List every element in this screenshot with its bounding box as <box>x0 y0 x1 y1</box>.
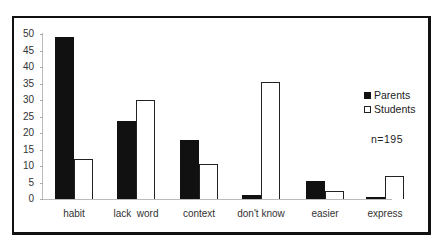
y-tick-label: 0 <box>0 194 34 204</box>
legend-item-parents: Parents <box>364 88 415 102</box>
y-tick-mark <box>40 150 43 151</box>
y-tick-mark <box>40 34 43 35</box>
bar-students <box>325 191 344 199</box>
y-tick-label: 20 <box>0 128 34 138</box>
x-tick-label: don't know <box>226 208 296 219</box>
bar-students <box>74 159 93 199</box>
y-tick-label: 15 <box>0 145 34 155</box>
y-tick-label: 35 <box>0 79 34 89</box>
legend-item-students: Students <box>364 102 415 116</box>
students-swatch-icon <box>364 106 371 113</box>
bar-students <box>385 176 404 199</box>
x-axis <box>42 199 392 200</box>
bar-parents <box>117 121 136 199</box>
x-tick-label: lack word <box>101 208 171 219</box>
bar-parents <box>306 181 325 199</box>
bar-chart: 05101520253035404550habitlack wordcontex… <box>0 0 441 246</box>
y-tick-label: 30 <box>0 95 34 105</box>
bar-parents <box>180 140 199 199</box>
x-tick-label: context <box>164 208 234 219</box>
bar-students <box>199 164 218 199</box>
bar-parents <box>242 195 261 199</box>
legend-label-parents: Parents <box>374 89 410 101</box>
y-tick-label: 50 <box>0 29 34 39</box>
y-tick-label: 5 <box>0 178 34 188</box>
legend-label-students: Students <box>374 103 415 115</box>
y-tick-mark <box>40 199 43 200</box>
x-tick-label: habit <box>39 208 109 219</box>
y-tick-mark <box>40 84 43 85</box>
y-tick-mark <box>40 166 43 167</box>
y-tick-mark <box>40 117 43 118</box>
legend: Parents Students <box>364 88 415 116</box>
y-tick-label: 45 <box>0 46 34 56</box>
y-tick-mark <box>40 133 43 134</box>
y-tick-label: 10 <box>0 161 34 171</box>
bar-students <box>136 100 155 199</box>
y-tick-label: 25 <box>0 112 34 122</box>
bar-parents <box>55 37 74 199</box>
bar-students <box>261 82 280 199</box>
y-tick-mark <box>40 67 43 68</box>
y-tick-mark <box>40 100 43 101</box>
y-tick-mark <box>40 51 43 52</box>
x-tick-label: express <box>350 208 420 219</box>
parents-swatch-icon <box>364 92 371 99</box>
y-tick-label: 40 <box>0 62 34 72</box>
sample-size-annotation: n=195 <box>371 133 403 145</box>
bar-parents <box>366 197 385 199</box>
y-tick-mark <box>40 183 43 184</box>
